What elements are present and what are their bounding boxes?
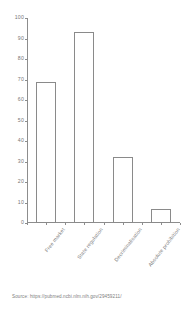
y-axis-tick-label: 90 xyxy=(0,36,24,41)
x-axis-category-label: Absolute prohibition xyxy=(147,227,181,268)
x-axis-tick-mark xyxy=(84,223,85,225)
y-axis-tick-label: 40 xyxy=(0,138,24,143)
x-axis-tick-mark xyxy=(142,223,143,225)
bar xyxy=(36,82,56,223)
x-axis-tick-mark xyxy=(27,223,28,225)
y-axis-tick-label: 60 xyxy=(0,97,24,102)
x-axis-tick-mark xyxy=(65,223,66,225)
y-axis-tick-label: 0 xyxy=(0,220,24,225)
plot-area xyxy=(27,18,180,223)
x-axis-category-label: Decriminalisation xyxy=(113,227,143,263)
bar xyxy=(151,209,171,223)
chart-figure: 0102030405060708090100 Free marketState … xyxy=(0,0,193,313)
source-note: Source: https://pubmed.ncbi.nlm.nih.gov/… xyxy=(12,294,122,300)
y-axis-tick-label: 10 xyxy=(0,200,24,205)
x-axis-tick-mark xyxy=(123,223,124,225)
x-axis-tick-mark xyxy=(161,223,162,225)
bar xyxy=(113,157,133,223)
y-axis-tick-label: 50 xyxy=(0,118,24,123)
y-axis-tick-label: 20 xyxy=(0,179,24,184)
y-axis-tick-label: 70 xyxy=(0,77,24,82)
y-axis-tick-label: 80 xyxy=(0,56,24,61)
x-axis-category-label: State regulation xyxy=(77,227,105,260)
x-axis-category-label: Free market xyxy=(44,227,66,253)
bar xyxy=(74,32,94,223)
x-axis-tick-mark xyxy=(180,223,181,225)
x-axis-tick-mark xyxy=(46,223,47,225)
y-axis-tick-label: 30 xyxy=(0,159,24,164)
x-axis-tick-mark xyxy=(104,223,105,225)
y-axis-tick-label: 100 xyxy=(0,15,24,20)
